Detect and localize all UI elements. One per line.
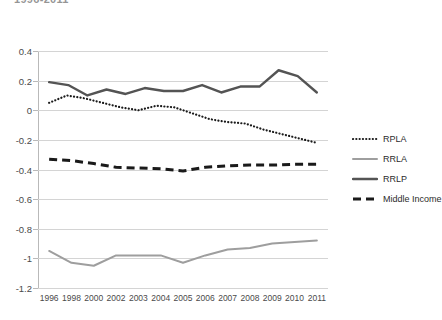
legend-swatch-icon (352, 194, 378, 204)
chart-title: 1996-2011 (14, 0, 69, 5)
y-axis-tick-label: -0.8 (0, 223, 32, 234)
x-axis-tick-label: 1996 (40, 293, 59, 303)
y-axis-tick-label: 0.2 (0, 75, 32, 86)
y-axis-tick-label: -1.2 (0, 283, 32, 294)
legend-item[interactable]: RRLA (352, 149, 442, 169)
legend-label: RRLP (383, 174, 407, 184)
x-axis-tick-label: 2004 (151, 293, 170, 303)
series-lines (38, 51, 328, 288)
legend-swatch-icon (352, 154, 378, 164)
gridline (38, 288, 328, 289)
legend-item[interactable]: RRLP (352, 169, 442, 189)
y-axis-tick-label: 0.4 (0, 46, 32, 57)
legend-item[interactable]: RPLA (352, 129, 442, 149)
x-axis-tick-label: 2000 (84, 293, 103, 303)
x-axis-tick-label: 1998 (62, 293, 81, 303)
plot-area (38, 51, 328, 288)
y-axis-tick-label: -0.2 (0, 134, 32, 145)
x-axis-tick-label: 2003 (129, 293, 148, 303)
x-axis-tick-label: 2006 (196, 293, 215, 303)
x-axis-tick-label: 2002 (107, 293, 126, 303)
x-axis-tick-label: 2010 (285, 293, 304, 303)
x-axis-tick-label: 2011 (308, 293, 326, 303)
y-axis-tick-label: -0.4 (0, 164, 32, 175)
legend-item[interactable]: Middle Income (352, 189, 442, 209)
x-axis-tick-label: 2009 (263, 293, 282, 303)
legend-label: Middle Income (383, 194, 442, 204)
series-line (49, 70, 317, 95)
x-axis-tick-label: 2005 (174, 293, 193, 303)
legend-label: RRLA (383, 154, 407, 164)
chart-legend: RPLARRLARRLPMiddle Income (352, 129, 442, 209)
series-line (49, 95, 317, 142)
y-axis-tick-label: -1 (0, 253, 32, 264)
series-line (49, 159, 317, 171)
x-axis-tick-label: 2007 (218, 293, 237, 303)
legend-swatch-icon (352, 134, 378, 144)
legend-label: RPLA (383, 134, 407, 144)
y-axis-tick-label: -0.6 (0, 194, 32, 205)
series-line (49, 241, 317, 266)
y-axis-tick-label: 0 (0, 105, 32, 116)
legend-swatch-icon (352, 174, 378, 184)
x-axis-tick-label: 2008 (240, 293, 259, 303)
